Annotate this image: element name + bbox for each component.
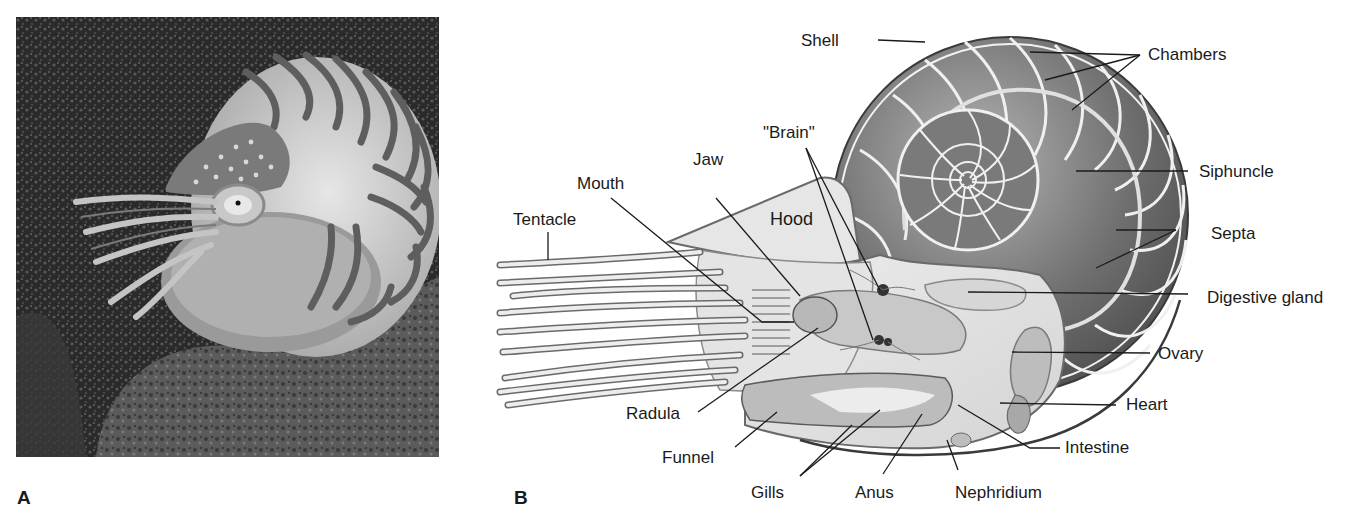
panel-label-b: B [514,487,528,509]
label-septa: Septa [1211,225,1255,242]
label-gills: Gills [751,484,784,501]
label-nephridium: Nephridium [955,484,1042,501]
nautilus-anatomy-diagram: Shell Chambers "Brain" Jaw Mouth Hood Te… [470,0,1368,518]
label-digestive-gland: Digestive gland [1207,289,1323,306]
label-siphuncle: Siphuncle [1199,163,1274,180]
label-mouth: Mouth [577,175,624,192]
label-hood: Hood [770,210,813,228]
nautilus-photo [16,17,439,457]
label-anus: Anus [855,484,894,501]
label-chambers: Chambers [1148,46,1226,63]
label-funnel: Funnel [662,449,714,466]
label-ovary: Ovary [1158,345,1203,362]
label-heart: Heart [1126,396,1168,413]
nautilus-photo-illustration [16,17,439,457]
label-tentacle: Tentacle [513,211,576,228]
label-brain: "Brain" [763,124,815,141]
label-jaw: Jaw [693,151,723,168]
label-intestine: Intestine [1065,439,1129,456]
panel-label-a: A [17,487,31,509]
label-shell: Shell [801,32,839,49]
label-radula: Radula [626,405,680,422]
anatomy-illustration [470,0,1368,518]
